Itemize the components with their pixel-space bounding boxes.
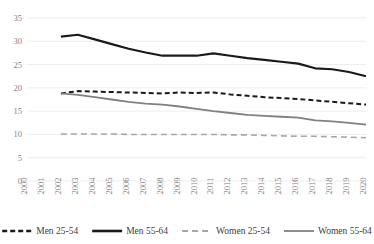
y-axis-tick-label: 25 — [14, 60, 23, 70]
x-axis-tick-label: 2001 — [36, 178, 46, 195]
x-axis-tick-label: 2020 — [358, 178, 368, 195]
legend-item-men-55-64[interactable]: Men 55-64 — [92, 226, 168, 236]
gridlines — [27, 18, 366, 181]
x-axis-tick-label: 2013 — [239, 178, 249, 195]
legend-label: Women 55-64 — [318, 226, 372, 236]
x-axis-tick-label: 2016 — [290, 178, 300, 195]
series-line-men-25-54 — [61, 91, 366, 105]
legend-label: Men 55-64 — [126, 226, 168, 236]
y-axis-tick-label: 20 — [14, 83, 23, 93]
y-axis-tick-label: 35 — [14, 13, 23, 23]
x-axis-tick-label: 2010 — [189, 178, 199, 195]
x-axis-tick-label: 2003 — [70, 178, 80, 195]
chart-container: 05101520253035 2000200120022003200420052… — [0, 0, 374, 244]
y-axis-tick-label: 15 — [14, 106, 23, 116]
x-axis-tick-label: 2019 — [341, 178, 351, 195]
x-axis-tick-label: 2004 — [87, 177, 97, 195]
data-series — [61, 35, 366, 138]
chart-legend[interactable]: Men 25-54Men 55-64Women 25-54Women 55-64 — [2, 226, 372, 236]
series-line-women-55-64 — [61, 93, 366, 124]
x-axis-tick-label: 2012 — [222, 178, 232, 195]
x-axis-tick-label: 2018 — [324, 178, 334, 195]
x-axis-tick-label: 2007 — [138, 178, 148, 195]
y-axis-tick-labels: 05101520253035 — [14, 13, 23, 186]
y-axis-tick-label: 30 — [14, 36, 23, 46]
legend-label: Men 25-54 — [36, 226, 78, 236]
x-axis-tick-label: 2009 — [172, 178, 182, 195]
legend-item-women-55-64[interactable]: Women 55-64 — [284, 226, 372, 236]
x-axis-tick-label: 2015 — [273, 178, 283, 195]
line-chart: 05101520253035 2000200120022003200420052… — [0, 0, 374, 244]
x-axis-tick-label: 2011 — [205, 178, 215, 195]
x-axis-tick-label: 2002 — [53, 178, 63, 195]
x-axis-tick-label: 2014 — [256, 177, 266, 195]
legend-item-women-25-54[interactable]: Women 25-54 — [182, 226, 270, 236]
x-axis-tick-labels: 2000200120022003200420052006200720082009… — [19, 177, 368, 195]
x-axis-tick-label: 2005 — [104, 178, 114, 195]
x-axis-tick-label: 2006 — [121, 178, 131, 195]
x-axis-tick-label: 2017 — [307, 178, 317, 195]
x-axis-tick-label: 2000 — [19, 178, 29, 195]
y-axis-tick-label: 10 — [14, 129, 23, 139]
legend-item-men-25-54[interactable]: Men 25-54 — [2, 226, 78, 236]
x-axis-tick-label: 2008 — [155, 178, 165, 195]
legend-label: Women 25-54 — [216, 226, 270, 236]
y-axis-tick-label: 5 — [18, 153, 22, 163]
